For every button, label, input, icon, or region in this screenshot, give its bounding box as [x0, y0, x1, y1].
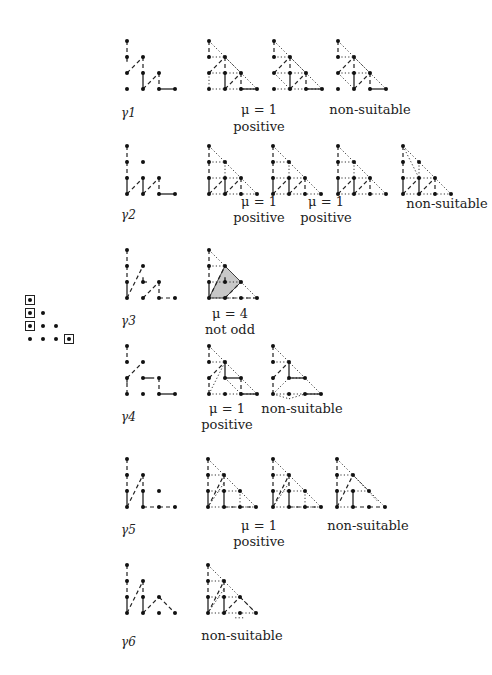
lattice-point [238, 611, 242, 615]
lattice-point [125, 360, 129, 364]
row-gamma-1: γ1μ = 1positivenon-suitable [121, 39, 411, 134]
lattice-point [141, 473, 145, 477]
lattice-point [173, 192, 177, 196]
lattice-point [287, 192, 291, 196]
lattice-point [67, 337, 71, 341]
row-gamma-2: γ2μ = 1positiveμ = 1positivenon-suitable [121, 144, 488, 225]
lattice-point [28, 298, 32, 302]
lattice-point [207, 160, 211, 164]
cover-panel [206, 563, 258, 618]
lattice-point [304, 71, 308, 75]
lattice-point [41, 337, 45, 341]
lattice-point [207, 280, 211, 284]
lattice-point [206, 489, 210, 493]
lattice-point [206, 579, 210, 583]
lattice-point [141, 505, 145, 509]
lattice-point [125, 376, 129, 380]
lattice-point [157, 489, 161, 493]
lattice-point [303, 489, 307, 493]
lattice-point [141, 611, 145, 615]
lattice-point [41, 324, 45, 328]
lattice-point [304, 87, 308, 91]
cover-panel [335, 457, 387, 509]
lattice-point [417, 160, 421, 164]
lattice-point [157, 595, 161, 599]
cover-panel [401, 144, 453, 196]
lattice-point [417, 176, 421, 180]
panel-caption: μ = 1 [241, 194, 277, 209]
cover-panel [207, 39, 259, 91]
lattice-point [352, 176, 356, 180]
lattice-point [207, 71, 211, 75]
lattice-point [157, 280, 161, 284]
row-gamma-6: γ6non-suitable [121, 563, 283, 649]
panel-caption: μ = 1 [241, 518, 277, 533]
lattice-point [239, 87, 243, 91]
lattice-point [287, 505, 291, 509]
lattice-point [401, 144, 405, 148]
path-panel [125, 39, 177, 91]
lattice-point [28, 311, 32, 315]
lattice-point [255, 296, 259, 300]
lattice-point [223, 192, 227, 196]
lattice-point [238, 595, 242, 599]
lattice-point [222, 611, 226, 615]
lattice-point [271, 376, 275, 380]
lattice-point [222, 489, 226, 493]
lattice-point [368, 176, 372, 180]
lattice-point [287, 360, 291, 364]
lattice-point [288, 87, 292, 91]
cover-panel [206, 457, 258, 509]
lattice-point [125, 457, 129, 461]
lattice-point [303, 376, 307, 380]
lattice-point [141, 264, 145, 268]
lattice-point [207, 376, 211, 380]
lattice-point [223, 55, 227, 59]
lattice-point [319, 505, 323, 509]
lattice-point [141, 579, 145, 583]
lattice-point [173, 296, 177, 300]
lattice-point [41, 311, 45, 315]
lattice-point [141, 296, 145, 300]
staircase-legend [26, 296, 74, 344]
lattice-point [223, 296, 227, 300]
lattice-point [222, 595, 226, 599]
lattice-point [222, 579, 226, 583]
lattice-point [125, 344, 129, 348]
lattice-point [157, 87, 161, 91]
lattice-point [222, 473, 226, 477]
lattice-point [222, 505, 226, 509]
lattice-point [223, 280, 227, 284]
panel-caption: μ = 1 [241, 102, 277, 117]
lattice-point [271, 360, 275, 364]
lattice-point [207, 248, 211, 252]
lattice-point [125, 296, 129, 300]
lattice-point [206, 563, 210, 567]
lattice-point [157, 296, 161, 300]
lattice-point [141, 595, 145, 599]
lattice-point [125, 611, 129, 615]
lattice-point [54, 324, 58, 328]
lattice-point [239, 176, 243, 180]
lattice-point [335, 489, 339, 493]
lattice-point [383, 505, 387, 509]
lattice-point [125, 176, 129, 180]
lattice-point [401, 176, 405, 180]
gamma-label: γ4 [121, 410, 136, 424]
lattice-point [271, 489, 275, 493]
lattice-point [351, 505, 355, 509]
lattice-point [223, 360, 227, 364]
gamma-label: γ2 [121, 208, 136, 222]
lattice-point [303, 176, 307, 180]
lattice-point [303, 505, 307, 509]
row-gamma-3: γ3μ = 4not odd [121, 248, 259, 337]
lattice-point [223, 176, 227, 180]
lattice-point [223, 392, 227, 396]
lattice-point [141, 192, 145, 196]
lattice-point [336, 144, 340, 148]
lattice-point [336, 160, 340, 164]
lattice-point [173, 611, 177, 615]
lattice-point [125, 280, 129, 284]
lattice-point [141, 280, 145, 284]
lattice-point [223, 376, 227, 380]
